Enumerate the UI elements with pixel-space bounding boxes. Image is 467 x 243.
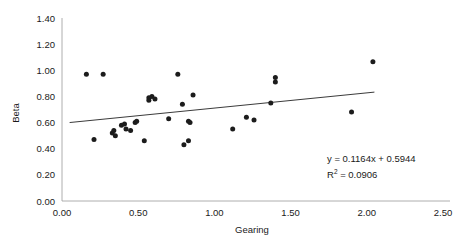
x-tick-label: 1.00 bbox=[205, 207, 224, 218]
y-tick-label: 0.20 bbox=[37, 169, 56, 180]
data-point bbox=[181, 142, 186, 147]
y-axis-title: Beta bbox=[10, 103, 21, 123]
data-point bbox=[273, 75, 278, 80]
x-tick-label: 0.50 bbox=[129, 207, 148, 218]
data-point bbox=[180, 102, 185, 107]
y-tick-label: 0.40 bbox=[37, 143, 56, 154]
data-point bbox=[273, 80, 278, 85]
y-tick-label: 1.40 bbox=[37, 13, 56, 24]
data-point bbox=[370, 59, 375, 64]
data-point bbox=[134, 119, 139, 124]
scatter-chart: 1.40 1.20 1.00 0.80 0.60 0.40 0.20 0.00 … bbox=[0, 0, 467, 243]
data-point bbox=[84, 72, 89, 77]
y-tick-label: 0.80 bbox=[37, 91, 56, 102]
data-point bbox=[268, 100, 273, 105]
data-point bbox=[152, 97, 157, 102]
y-tick-label: 0.60 bbox=[37, 117, 56, 128]
data-point bbox=[244, 115, 249, 120]
y-tick-label: 1.00 bbox=[37, 65, 56, 76]
data-point bbox=[92, 137, 97, 142]
data-point bbox=[349, 110, 354, 115]
data-point bbox=[166, 116, 171, 121]
data-point bbox=[128, 128, 133, 133]
data-point bbox=[101, 72, 106, 77]
plot-canvas: 1.40 1.20 1.00 0.80 0.60 0.40 0.20 0.00 … bbox=[0, 0, 467, 243]
data-point bbox=[146, 98, 151, 103]
x-tick-label: 1.50 bbox=[281, 207, 300, 218]
data-point bbox=[122, 121, 127, 126]
data-point bbox=[175, 72, 180, 77]
data-point bbox=[230, 127, 235, 132]
y-tick-label: 1.20 bbox=[37, 39, 56, 50]
data-point bbox=[186, 138, 191, 143]
r-squared-value: = 0.0906 bbox=[338, 169, 378, 180]
data-point bbox=[113, 133, 118, 138]
x-tick-label: 2.00 bbox=[358, 207, 377, 218]
data-point bbox=[142, 138, 147, 143]
data-point bbox=[191, 93, 196, 98]
data-point bbox=[188, 120, 193, 125]
data-point bbox=[111, 128, 116, 133]
x-axis-title: Gearing bbox=[235, 224, 269, 235]
x-tick-label: 0.00 bbox=[53, 207, 72, 218]
data-point bbox=[124, 127, 129, 132]
x-tick-label: 2.50 bbox=[434, 207, 453, 218]
regression-equation: y = 0.1164x + 0.5944 bbox=[327, 153, 416, 164]
data-point bbox=[252, 117, 257, 122]
y-tick-label: 0.00 bbox=[37, 196, 56, 207]
